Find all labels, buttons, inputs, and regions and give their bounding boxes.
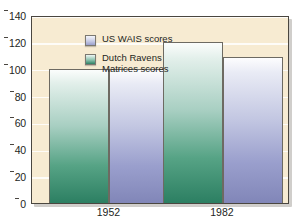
y-axis-tick-mark xyxy=(4,37,8,38)
y-axis-tick-label: 20 xyxy=(15,171,26,183)
legend-label-dutch-ravens: Dutch Ravens Matrices scores xyxy=(102,53,169,74)
x-axis: 19521982 xyxy=(31,206,289,224)
bar-1952-blue xyxy=(109,69,169,203)
legend-swatch-icon-dutch-ravens xyxy=(85,54,96,65)
y-axis-tick-mark xyxy=(4,10,8,11)
y-axis-tick-label: 120 xyxy=(9,37,26,49)
y-axis-tick-mark xyxy=(10,91,14,92)
y-axis-tick-mark xyxy=(10,171,14,172)
y-axis-tick-mark xyxy=(10,144,14,145)
bar-chart: 020406080100120140 US WAIS scores Dutch … xyxy=(0,0,302,224)
y-axis-tick-label: 80 xyxy=(15,91,26,103)
x-axis-tick-label: 1952 xyxy=(97,206,120,218)
y-axis-tick-label: 100 xyxy=(9,64,26,76)
y-axis-tick-mark xyxy=(15,198,19,199)
chart-legend: US WAIS scores Dutch Ravens Matrices sco… xyxy=(85,34,172,74)
y-axis-tick-mark xyxy=(4,64,8,65)
legend-item-dutch-ravens: Dutch Ravens Matrices scores xyxy=(85,53,172,74)
y-axis-tick-label: 140 xyxy=(9,10,26,22)
y-axis: 020406080100120140 xyxy=(0,16,29,204)
legend-item-us-wais: US WAIS scores xyxy=(85,34,172,46)
legend-label-us-wais: US WAIS scores xyxy=(102,34,172,45)
plot-area: US WAIS scores Dutch Ravens Matrices sco… xyxy=(31,16,289,204)
y-axis-tick-label: 0 xyxy=(20,198,26,210)
legend-swatch-icon-us-wais xyxy=(85,35,96,46)
bar-1952-green xyxy=(49,69,109,203)
x-axis-tick-label: 1982 xyxy=(210,206,233,218)
y-axis-tick-mark xyxy=(10,117,14,118)
y-axis-tick-label: 60 xyxy=(15,117,26,129)
bar-1982-blue xyxy=(223,57,283,203)
y-axis-tick-label: 40 xyxy=(15,144,26,156)
